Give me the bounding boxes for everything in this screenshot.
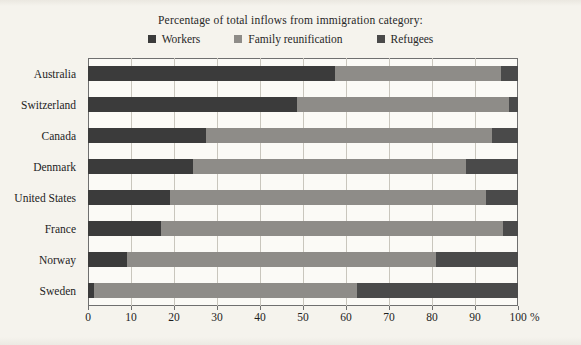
x-axis-labels: 0102030405060708090100% — [0, 311, 581, 333]
bar-segment-workers — [88, 97, 297, 112]
legend-swatch-family-reunification — [234, 35, 242, 43]
bar-segment-family-reunification — [335, 66, 501, 81]
x-axis-tick — [303, 306, 304, 310]
x-axis-tick-label: 80 — [426, 311, 438, 323]
bar-segment-refugees — [509, 97, 518, 112]
bar-row — [88, 283, 518, 298]
bar-row — [88, 97, 518, 112]
x-axis-tick — [217, 306, 218, 310]
bar-segment-refugees — [503, 221, 518, 236]
bar-segment-refugees — [466, 159, 518, 174]
bar-segment-refugees — [486, 190, 518, 205]
bar-segment-refugees — [492, 128, 518, 143]
x-axis-tick-label: 70 — [383, 311, 395, 323]
x-axis-tick-label: 90 — [469, 311, 481, 323]
legend-label-workers: Workers — [162, 33, 201, 45]
x-axis-tick — [346, 306, 347, 310]
y-axis-tick-label: Sweden — [0, 285, 82, 297]
bar-segment-family-reunification — [94, 283, 356, 298]
bar-segment-refugees — [501, 66, 518, 81]
bar-segment-family-reunification — [206, 128, 492, 143]
y-axis-tick-label: Australia — [0, 68, 82, 80]
x-axis-tick — [475, 306, 476, 310]
legend-swatch-refugees — [377, 35, 385, 43]
x-axis-tick-label: 40 — [254, 311, 266, 323]
bar-row — [88, 159, 518, 174]
bars-container — [88, 58, 518, 306]
legend-swatch-workers — [148, 35, 156, 43]
chart-legend: Workers Family reunification Refugees — [0, 33, 581, 45]
y-axis-tick-label: United States — [0, 192, 82, 204]
x-axis-tick-label: 50 — [297, 311, 309, 323]
legend-item-workers: Workers — [148, 33, 201, 45]
x-axis-tick — [131, 306, 132, 310]
x-axis-tick — [518, 306, 519, 310]
bar-segment-workers — [88, 221, 161, 236]
x-axis-tick-label: 100 — [509, 311, 526, 323]
x-axis-tick-label: 10 — [125, 311, 137, 323]
bar-segment-refugees — [357, 283, 518, 298]
bar-segment-workers — [88, 128, 206, 143]
y-axis-tick-label: Switzerland — [0, 99, 82, 111]
bar-segment-family-reunification — [297, 97, 510, 112]
x-axis-tick — [389, 306, 390, 310]
x-axis-unit-label: % — [530, 311, 540, 323]
bar-segment-family-reunification — [170, 190, 486, 205]
bar-segment-family-reunification — [193, 159, 466, 174]
bar-row — [88, 128, 518, 143]
chart-page: Percentage of total inflows from immigra… — [0, 0, 581, 345]
bar-segment-workers — [88, 159, 193, 174]
bar-segment-workers — [88, 190, 170, 205]
x-axis-tick-label: 0 — [85, 311, 91, 323]
x-axis-tick-label: 60 — [340, 311, 352, 323]
plot-area — [88, 58, 518, 306]
x-axis-tick-label: 30 — [211, 311, 223, 323]
y-axis-tick-label: Norway — [0, 254, 82, 266]
bar-row — [88, 252, 518, 267]
legend-label-family-reunification: Family reunification — [248, 33, 342, 45]
bar-segment-workers — [88, 66, 335, 81]
bar-row — [88, 66, 518, 81]
y-axis-tick-label: France — [0, 223, 82, 235]
bar-segment-workers — [88, 252, 127, 267]
x-axis-tick-label: 20 — [168, 311, 180, 323]
chart-title: Percentage of total inflows from immigra… — [0, 14, 581, 26]
y-axis-tick-label: Denmark — [0, 161, 82, 173]
legend-label-refugees: Refugees — [391, 33, 434, 45]
bar-segment-family-reunification — [161, 221, 503, 236]
legend-item-refugees: Refugees — [377, 33, 434, 45]
bar-segment-family-reunification — [127, 252, 437, 267]
x-axis-tick — [260, 306, 261, 310]
x-axis-tick — [88, 306, 89, 310]
legend-item-family-reunification: Family reunification — [234, 33, 342, 45]
bar-row — [88, 190, 518, 205]
y-axis-labels: AustraliaSwitzerlandCanadaDenmarkUnited … — [0, 58, 82, 306]
x-axis-tick — [432, 306, 433, 310]
y-axis-tick-label: Canada — [0, 130, 82, 142]
bar-segment-refugees — [436, 252, 518, 267]
bar-row — [88, 221, 518, 236]
x-axis-tick — [174, 306, 175, 310]
